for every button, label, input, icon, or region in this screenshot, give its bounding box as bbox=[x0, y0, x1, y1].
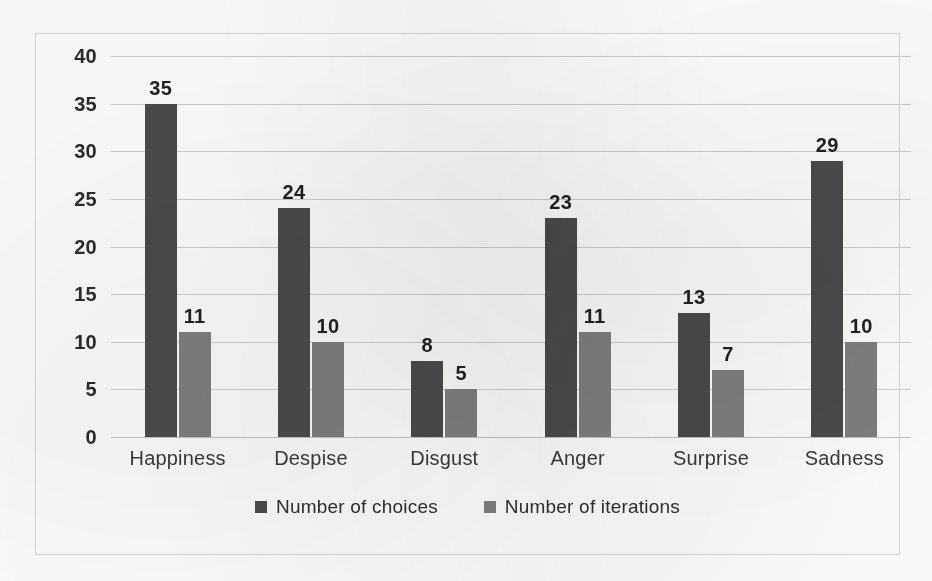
bar-sadness-number-of-choices[interactable] bbox=[811, 161, 843, 437]
x-axis-label-disgust: Disgust bbox=[378, 447, 511, 470]
bar-value-label: 10 bbox=[317, 315, 340, 338]
x-axis-label-surprise: Surprise bbox=[644, 447, 777, 470]
bar-value-label: 23 bbox=[549, 191, 572, 214]
bar-wrap-despise-s1: 10 bbox=[312, 56, 344, 437]
bar-wrap-surprise-s0: 13 bbox=[678, 56, 710, 437]
plot-area: 0510152025303540 351124108523111372910 bbox=[111, 56, 911, 437]
bar-wrap-sadness-s0: 29 bbox=[811, 56, 843, 437]
bar-group-surprise: 137 bbox=[644, 56, 777, 437]
gridline-0 bbox=[111, 437, 911, 438]
bar-value-label: 24 bbox=[283, 181, 306, 204]
bar-wrap-happiness-s1: 11 bbox=[179, 56, 211, 437]
bar-group-happiness: 3511 bbox=[111, 56, 244, 437]
bar-disgust-number-of-iterations[interactable] bbox=[445, 389, 477, 437]
bar-wrap-anger-s0: 23 bbox=[545, 56, 577, 437]
bar-wrap-despise-s0: 24 bbox=[278, 56, 310, 437]
bar-value-label: 13 bbox=[683, 286, 706, 309]
x-axis-label-happiness: Happiness bbox=[111, 447, 244, 470]
bar-disgust-number-of-choices[interactable] bbox=[411, 361, 443, 437]
chart-legend: Number of choicesNumber of iterations bbox=[36, 496, 899, 518]
bar-wrap-surprise-s1: 7 bbox=[712, 56, 744, 437]
y-axis-tick-10: 10 bbox=[74, 330, 97, 353]
y-axis-tick-35: 35 bbox=[74, 92, 97, 115]
bar-despise-number-of-iterations[interactable] bbox=[312, 342, 344, 437]
bar-group-despise: 2410 bbox=[244, 56, 377, 437]
bar-anger-number-of-choices[interactable] bbox=[545, 218, 577, 437]
bar-wrap-happiness-s0: 35 bbox=[145, 56, 177, 437]
bar-wrap-disgust-s0: 8 bbox=[411, 56, 443, 437]
y-axis-tick-40: 40 bbox=[74, 45, 97, 68]
bar-sadness-number-of-iterations[interactable] bbox=[845, 342, 877, 437]
y-axis-tick-15: 15 bbox=[74, 283, 97, 306]
bar-surprise-number-of-iterations[interactable] bbox=[712, 370, 744, 437]
bar-value-label: 10 bbox=[850, 315, 873, 338]
bar-happiness-number-of-choices[interactable] bbox=[145, 104, 177, 437]
x-axis-label-sadness: Sadness bbox=[778, 447, 911, 470]
legend-item-number-of-choices[interactable]: Number of choices bbox=[255, 496, 438, 518]
y-axis-tick-30: 30 bbox=[74, 140, 97, 163]
bar-despise-number-of-choices[interactable] bbox=[278, 208, 310, 437]
bar-value-label: 8 bbox=[422, 334, 433, 357]
legend-item-number-of-iterations[interactable]: Number of iterations bbox=[484, 496, 680, 518]
bar-groups: 351124108523111372910 bbox=[111, 56, 911, 437]
y-axis-tick-20: 20 bbox=[74, 235, 97, 258]
bar-value-label: 29 bbox=[816, 134, 839, 157]
legend-swatch-icon bbox=[255, 501, 267, 513]
bar-value-label: 11 bbox=[184, 305, 206, 328]
x-axis-category-labels: HappinessDespiseDisgustAngerSurpriseSadn… bbox=[111, 447, 911, 470]
y-axis-tick-5: 5 bbox=[86, 378, 97, 401]
bar-value-label: 11 bbox=[584, 305, 606, 328]
chart-frame: 0510152025303540 351124108523111372910 H… bbox=[35, 33, 900, 555]
bar-value-label: 5 bbox=[456, 362, 467, 385]
bar-surprise-number-of-choices[interactable] bbox=[678, 313, 710, 437]
legend-label: Number of choices bbox=[276, 496, 438, 518]
x-axis-label-anger: Anger bbox=[511, 447, 644, 470]
bar-wrap-disgust-s1: 5 bbox=[445, 56, 477, 437]
bar-group-disgust: 85 bbox=[378, 56, 511, 437]
legend-swatch-icon bbox=[484, 501, 496, 513]
bar-group-anger: 2311 bbox=[511, 56, 644, 437]
bar-wrap-anger-s1: 11 bbox=[579, 56, 611, 437]
y-axis-tick-25: 25 bbox=[74, 187, 97, 210]
bar-group-sadness: 2910 bbox=[778, 56, 911, 437]
bar-value-label: 35 bbox=[149, 77, 172, 100]
bar-happiness-number-of-iterations[interactable] bbox=[179, 332, 211, 437]
x-axis-label-despise: Despise bbox=[244, 447, 377, 470]
bar-wrap-sadness-s1: 10 bbox=[845, 56, 877, 437]
legend-label: Number of iterations bbox=[505, 496, 680, 518]
bar-anger-number-of-iterations[interactable] bbox=[579, 332, 611, 437]
bar-value-label: 7 bbox=[722, 343, 733, 366]
y-axis-tick-0: 0 bbox=[86, 426, 97, 449]
